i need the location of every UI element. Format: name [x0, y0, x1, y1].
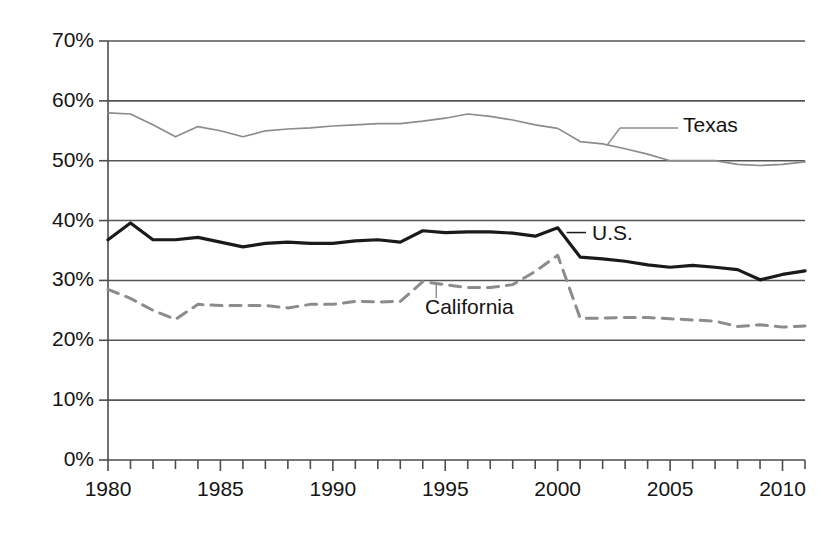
series-line-us: [108, 223, 805, 280]
x-tick-label-1980: 1980: [73, 477, 143, 501]
line-chart-plot: [0, 0, 826, 538]
y-tick-label-40: 40%: [52, 208, 94, 232]
x-tick-label-1995: 1995: [410, 477, 480, 501]
x-tick-label-2005: 2005: [635, 477, 705, 501]
chart-container: 70%60%50%40%30%20%10%0% 1980198519901995…: [0, 0, 826, 538]
series-label-us: U.S.: [592, 221, 633, 245]
x-tick-label-1990: 1990: [298, 477, 368, 501]
y-tick-label-10: 10%: [52, 387, 94, 411]
y-tick-label-50: 50%: [52, 148, 94, 172]
gridlines: [108, 41, 805, 400]
leader-line-texas-2: [607, 128, 620, 145]
series-label-texas: Texas: [683, 113, 738, 137]
y-tick-label-30: 30%: [52, 267, 94, 291]
x-tick-label-2000: 2000: [523, 477, 593, 501]
y-tick-label-20: 20%: [52, 327, 94, 351]
series-label-california: California: [425, 295, 514, 319]
x-axis-ticks: [108, 460, 805, 471]
y-tick-label-70: 70%: [52, 28, 94, 52]
x-tick-label-1985: 1985: [185, 477, 255, 501]
y-tick-label-0: 0%: [64, 447, 94, 471]
y-tick-label-60: 60%: [52, 88, 94, 112]
x-tick-label-2010: 2010: [748, 477, 818, 501]
y-axis-ticks: [99, 41, 108, 460]
